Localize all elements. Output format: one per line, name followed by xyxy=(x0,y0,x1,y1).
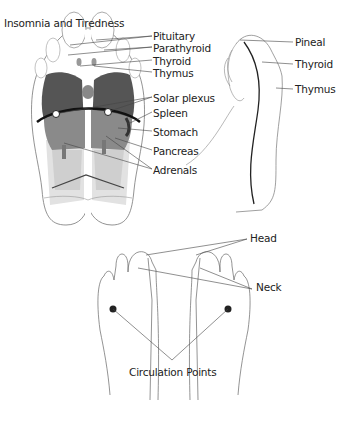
label-side-thyroid: Thyroid xyxy=(295,58,333,70)
label-circulation-points: Circulation Points xyxy=(129,366,217,378)
label-solar-plexus: Solar plexus xyxy=(153,92,215,104)
label-thymus: Thymus xyxy=(153,67,193,79)
label-side-thymus: Thymus xyxy=(295,83,335,95)
label-pineal: Pineal xyxy=(295,36,325,48)
label-parathyroid: Parathyroid xyxy=(153,42,211,54)
label-adrenals: Adrenals xyxy=(153,164,197,176)
reflexology-diagram: Insomnia and Tiredness Pituitary Parathy… xyxy=(0,0,351,423)
label-pituitary: Pituitary xyxy=(153,30,195,42)
label-thyroid: Thyroid xyxy=(153,55,191,67)
diagram-title: Insomnia and Tiredness xyxy=(4,17,124,29)
label-spleen: Spleen xyxy=(153,107,188,119)
label-pancreas: Pancreas xyxy=(153,145,199,157)
label-neck: Neck xyxy=(256,281,281,293)
label-head: Head xyxy=(250,232,277,244)
label-stomach: Stomach xyxy=(153,126,198,138)
